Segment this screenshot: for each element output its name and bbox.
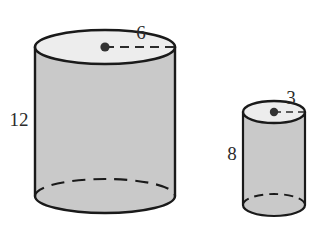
small-cylinder: 3 8 bbox=[227, 87, 305, 216]
large-cylinder: 6 12 bbox=[10, 22, 176, 213]
large-cylinder-body bbox=[35, 47, 175, 213]
small-cylinder-height-label: 8 bbox=[227, 143, 237, 164]
small-cylinder-body bbox=[243, 112, 305, 216]
cylinder-figure: 6 12 3 8 bbox=[0, 0, 314, 236]
small-cylinder-center-dot bbox=[270, 108, 278, 116]
large-cylinder-radius-label: 6 bbox=[136, 22, 146, 43]
small-cylinder-radius-label: 3 bbox=[286, 87, 296, 108]
figure-canvas: 6 12 3 8 bbox=[0, 0, 314, 236]
large-cylinder-height-label: 12 bbox=[10, 109, 29, 130]
large-cylinder-center-dot bbox=[100, 42, 109, 51]
